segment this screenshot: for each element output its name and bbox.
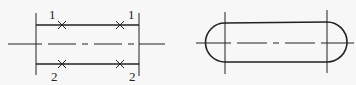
right-figure: [196, 10, 354, 74]
label-bottom-right: 2: [129, 69, 136, 84]
diagram-canvas: 1 1 2 2: [0, 0, 356, 85]
label-top-left: 1: [49, 7, 56, 22]
left-figure: [8, 13, 165, 76]
label-bottom-left: 2: [51, 69, 58, 84]
label-top-right: 1: [128, 7, 135, 22]
rounded-slot-outline: [206, 22, 348, 62]
